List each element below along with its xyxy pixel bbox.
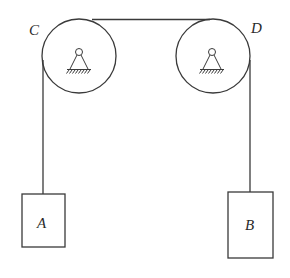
label-a: A <box>36 215 47 231</box>
pulley-c: C <box>29 19 116 93</box>
pulley-diagram: C D A B <box>0 0 290 278</box>
pulley-d: D <box>176 19 262 93</box>
block-a: A <box>22 194 65 247</box>
block-b: B <box>228 192 273 258</box>
pulley-d-wheel <box>176 19 250 93</box>
label-c: C <box>29 22 40 38</box>
pivot-support-icon <box>200 49 225 74</box>
pivot-support-icon <box>67 49 92 74</box>
label-d: D <box>250 20 262 36</box>
label-b: B <box>245 217 254 233</box>
